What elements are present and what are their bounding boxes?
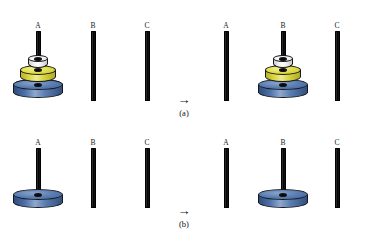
subfigure-caption-a: (a) [167,108,201,118]
peg-label-c: C [137,22,157,30]
subfigure-caption-b: (b) [167,219,201,229]
peg-rod-a [224,148,229,208]
peg-label-b: B [273,139,293,147]
peg-label-a: A [28,22,48,30]
peg-rod-c [145,148,150,208]
disk-white-small[interactable] [28,55,48,68]
peg-rod-b [91,31,96,101]
disk-blue-large[interactable] [258,189,308,208]
peg-rod-c [145,31,150,101]
peg-label-c: C [137,139,157,147]
peg-label-a: A [216,22,236,30]
peg-label-b: B [83,139,103,147]
hanoi-figure: A B [0,0,365,246]
subfigure-a-panel-before: A B [0,8,182,118]
disk-white-small[interactable] [273,55,293,68]
subfigure-b-panel-after: A B C [183,131,365,241]
subfigure-a-panel-after: A B C [183,8,365,118]
peg-rod-c [335,148,340,208]
peg-label-c: C [327,22,347,30]
disk-blue-large[interactable] [13,189,63,208]
peg-label-b: B [273,22,293,30]
peg-label-a: A [216,139,236,147]
transition-arrow-b: → [173,205,195,217]
peg-rod-c [335,31,340,101]
peg-label-b: B [83,22,103,30]
peg-label-a: A [28,139,48,147]
peg-rod-b [91,148,96,208]
peg-label-c: C [327,139,347,147]
transition-arrow-a: → [173,94,195,106]
subfigure-b-panel-before: A B C [0,131,182,241]
peg-rod-a [224,31,229,101]
